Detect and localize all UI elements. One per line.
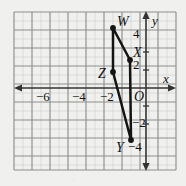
y-tick-label-4: 4 bbox=[133, 26, 140, 41]
vertex-point-w bbox=[110, 25, 116, 31]
x-axis-label: x bbox=[162, 71, 169, 86]
vertex-label-w: W bbox=[117, 14, 130, 29]
x-tick-label-neg6: −6 bbox=[36, 89, 50, 104]
y-tick-label-neg4: −4 bbox=[128, 139, 142, 154]
origin-label: O bbox=[134, 89, 144, 104]
coordinate-plane-figure: W X Y Z y x O 4 2 −2 −4 −6 −4 −2 bbox=[0, 0, 186, 186]
y-axis-label: y bbox=[150, 13, 158, 28]
x-tick-label-neg4: −4 bbox=[72, 89, 86, 104]
y-tick-label-2: 2 bbox=[133, 57, 140, 72]
vertex-point-z bbox=[110, 69, 116, 75]
x-tick-label-neg2: −2 bbox=[100, 89, 114, 104]
y-tick-label-neg2: −2 bbox=[132, 115, 146, 130]
vertex-label-z: Z bbox=[98, 66, 106, 81]
